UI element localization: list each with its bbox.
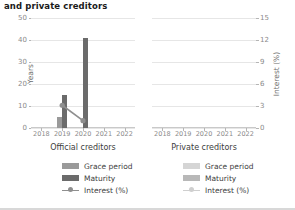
y-axis-tickmark	[256, 128, 259, 129]
x-axis-tickmark	[41, 128, 42, 131]
x-axis-tickmark	[246, 128, 247, 131]
y-axis-tick-right: 3	[260, 102, 264, 110]
legend-label: Interest (%)	[205, 185, 249, 196]
legend-swatch-icon	[183, 175, 200, 181]
legend-line-marker-icon	[183, 187, 200, 194]
footer-divider	[0, 208, 295, 210]
legend-private-creditors: Grace periodMaturityInterest (%)	[183, 160, 254, 196]
x-axis-tickmark	[183, 128, 184, 131]
legend-item[interactable]: Maturity	[62, 172, 133, 184]
x-axis-tickmark	[83, 128, 84, 131]
legend-label: Maturity	[84, 173, 115, 184]
x-axis-tickmark	[225, 128, 226, 131]
line-series-interest	[31, 18, 135, 128]
plot-area-private-creditors: Interest (%) 036912152018201920202021202…	[152, 18, 256, 128]
x-axis-tickmark	[125, 128, 126, 131]
legend-item[interactable]: Maturity	[183, 172, 254, 184]
x-axis-tickmark	[204, 128, 205, 131]
legend-official-creditors: Grace periodMaturityInterest (%)	[62, 160, 133, 196]
legend-swatch-icon	[183, 163, 200, 169]
legend-item[interactable]: Grace period	[183, 160, 254, 172]
y-axis-tickmark	[29, 128, 32, 129]
y-axis-tick-right: 9	[260, 58, 264, 66]
x-axis-tick: 2021	[96, 130, 113, 138]
legend-label: Interest (%)	[84, 185, 128, 196]
panel-caption-private: Private creditors	[144, 143, 264, 152]
x-axis-tick: 2018	[33, 130, 50, 138]
figure-title: and private creditors	[4, 1, 107, 11]
x-axis-tick: 2019	[175, 130, 192, 138]
y-axis-tick-left: 30	[18, 58, 27, 66]
x-axis-tick: 2018	[154, 130, 171, 138]
y-axis-tickmark	[256, 62, 259, 63]
gridline	[152, 106, 256, 107]
legend-item[interactable]: Interest (%)	[183, 184, 254, 196]
y-axis-tick-left: 40	[18, 36, 27, 44]
legend-line-marker-icon	[62, 187, 79, 194]
y-axis-tickmark	[256, 84, 259, 85]
plot-area-official-creditors: Years 0102030405020182019202020212022	[31, 18, 135, 128]
legend-label: Maturity	[205, 173, 236, 184]
legend-item[interactable]: Grace period	[62, 160, 133, 172]
x-axis-tick: 2020	[75, 130, 92, 138]
legend-swatch-icon	[62, 163, 79, 169]
x-axis-tick: 2019	[54, 130, 71, 138]
legend-swatch-icon	[62, 175, 79, 181]
legend-item[interactable]: Interest (%)	[62, 184, 133, 196]
x-axis-tick: 2021	[217, 130, 234, 138]
y-axis-tickmark	[256, 18, 259, 19]
x-axis-tickmark	[62, 128, 63, 131]
legend-label: Grace period	[84, 161, 133, 172]
y-axis-tick-left: 10	[18, 102, 27, 110]
plot-background-right	[152, 18, 256, 128]
y-axis-tick-right: 15	[260, 14, 269, 22]
gridline	[152, 40, 256, 41]
gridline	[152, 84, 256, 85]
x-axis-tick: 2022	[116, 130, 133, 138]
panel-caption-official: Official creditors	[23, 143, 143, 152]
x-axis-tickmark	[162, 128, 163, 131]
y-axis-tickmark	[256, 40, 259, 41]
gridline	[152, 18, 256, 19]
gridline	[152, 62, 256, 63]
y-axis-tickmark	[256, 106, 259, 107]
figure: and private creditors Years 010203040502…	[0, 0, 295, 210]
y-axis-tick-left: 0	[23, 124, 27, 132]
y-axis-tick-left: 50	[18, 14, 27, 22]
y-axis-tick-right: 6	[260, 80, 264, 88]
y-axis-tick-right: 0	[260, 124, 264, 132]
x-axis-tick: 2022	[237, 130, 254, 138]
y-axis-label-right: Interest (%)	[272, 52, 281, 96]
y-axis-tick-right: 12	[260, 36, 269, 44]
x-axis-tick: 2020	[196, 130, 213, 138]
x-axis-tickmark	[104, 128, 105, 131]
y-axis-tick-left: 20	[18, 80, 27, 88]
legend-label: Grace period	[205, 161, 254, 172]
